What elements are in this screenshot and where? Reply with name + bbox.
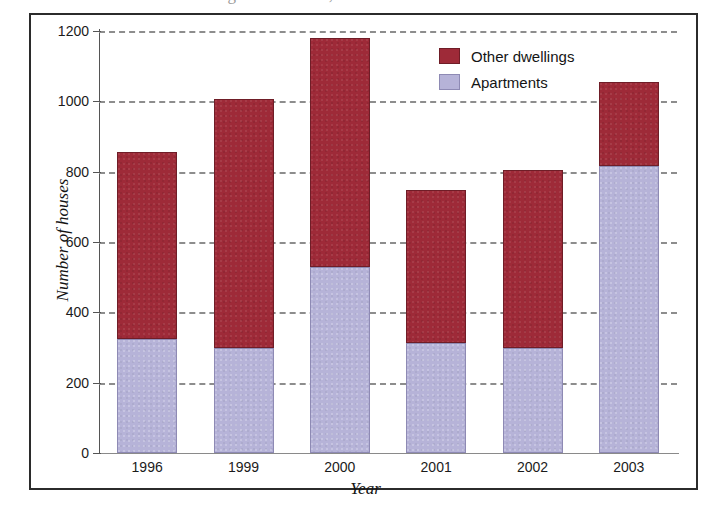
x-axis-tick-label: 1999 <box>204 459 284 475</box>
bar-stack[interactable] <box>503 170 563 453</box>
legend-swatch-icon <box>439 48 460 64</box>
gridline <box>99 172 677 174</box>
bar-segment-other-dwellings[interactable] <box>214 99 274 348</box>
legend-swatch-icon <box>439 74 460 90</box>
y-axis-tick <box>93 453 101 454</box>
bar-segment-apartments[interactable] <box>503 348 563 454</box>
gridline <box>99 101 677 103</box>
y-axis-tick <box>93 172 101 173</box>
y-axis-tick-label: 1000 <box>31 93 89 109</box>
bar-stack[interactable] <box>599 82 659 453</box>
plot-area: 020040060080010001200 Number of houses 1… <box>31 15 700 492</box>
y-axis-tick <box>93 31 101 32</box>
y-axis-tick <box>93 312 101 313</box>
y-axis-tick-label: 200 <box>31 375 89 391</box>
bar-segment-other-dwellings[interactable] <box>503 170 563 348</box>
clipped-caption-text: of dwellings in the area, 1996 to 2003 <box>150 0 438 5</box>
y-axis-tick <box>93 383 101 384</box>
bar-segment-other-dwellings[interactable] <box>310 38 370 267</box>
x-axis-tick-label: 2000 <box>300 459 380 475</box>
bar-stack[interactable] <box>310 38 370 453</box>
y-axis-tick-label: 0 <box>31 445 89 461</box>
bar-segment-apartments[interactable] <box>599 166 659 453</box>
gridline <box>99 242 677 244</box>
chart-legend: Other dwellingsApartments <box>439 43 574 95</box>
y-axis-tick-label: 1200 <box>31 23 89 39</box>
gridline <box>99 383 677 385</box>
bar-segment-other-dwellings[interactable] <box>599 82 659 166</box>
gridline <box>99 31 677 33</box>
legend-item-label: Apartments <box>471 74 548 91</box>
bar-segment-apartments[interactable] <box>117 339 177 453</box>
x-axis-tick-label: 2003 <box>589 459 669 475</box>
legend-item[interactable]: Other dwellings <box>439 43 574 69</box>
chart-figure-frame: 020040060080010001200 Number of houses 1… <box>29 13 698 490</box>
x-axis-tick-label: 2002 <box>493 459 573 475</box>
y-axis-tick <box>93 242 101 243</box>
bar-segment-apartments[interactable] <box>310 267 370 453</box>
bar-segment-apartments[interactable] <box>406 343 466 453</box>
bar-segment-apartments[interactable] <box>214 348 274 454</box>
gridline <box>99 312 677 314</box>
x-axis-title: Year <box>31 479 700 499</box>
bar-stack[interactable] <box>117 152 177 453</box>
y-axis-tick <box>93 101 101 102</box>
bar-stack[interactable] <box>406 190 466 453</box>
clipped-caption-strip: of dwellings in the area, 1996 to 2003 <box>0 0 727 9</box>
x-axis-tick-label: 1996 <box>107 459 187 475</box>
legend-item-label: Other dwellings <box>471 48 574 65</box>
x-axis-line <box>99 453 679 454</box>
bar-stack[interactable] <box>214 99 274 453</box>
x-axis-tick-label: 2001 <box>396 459 476 475</box>
legend-item[interactable]: Apartments <box>439 69 574 95</box>
bar-segment-other-dwellings[interactable] <box>406 190 466 344</box>
bar-segment-other-dwellings[interactable] <box>117 152 177 338</box>
y-axis-title: Number of houses <box>53 110 73 370</box>
